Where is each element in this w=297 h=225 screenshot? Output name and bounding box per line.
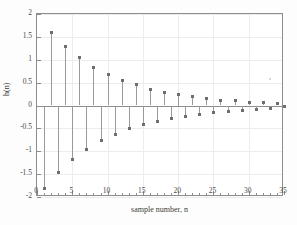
y-axis-tick-label: -0.5	[2, 123, 32, 131]
x-axis-title: sample number, n	[36, 205, 283, 214]
y-axis-tick-labels: -2-1.5-1-0.500.511.52	[36, 13, 283, 196]
x-axis-tick-label: 5	[59, 186, 83, 195]
gridline-horizontal	[37, 197, 282, 198]
x-axis-tick-label: 20	[165, 186, 189, 195]
data-point-marker	[283, 105, 286, 108]
y-axis-tick-label: -1	[2, 146, 32, 154]
x-axis-tick-label: 0	[24, 186, 48, 195]
x-axis-tick-label: 30	[236, 186, 260, 195]
y-axis-tick-label: -1.5	[2, 169, 32, 177]
x-axis-tick-label: 10	[95, 186, 119, 195]
y-axis-tick-label: 1	[2, 55, 32, 63]
x-axis-tick-label: 15	[130, 186, 154, 195]
y-axis-tick-label: 0	[2, 101, 32, 109]
x-axis-tick-label: 35	[271, 186, 295, 195]
y-axis-tick-label: 2	[2, 9, 32, 17]
figure-canvas: -2-1.5-1-0.500.511.52 05101520253035 sam…	[0, 0, 297, 225]
y-axis-tick-label: 1.5	[2, 32, 32, 40]
x-axis-tick-label: 25	[200, 186, 224, 195]
y-axis-tick	[37, 197, 41, 198]
y-axis-title: h(n)	[2, 83, 11, 96]
